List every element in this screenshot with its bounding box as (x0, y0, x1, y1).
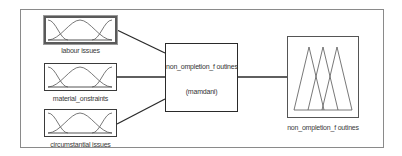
gaussian-mf-icon (46, 18, 115, 42)
fis-system-block[interactable]: non_ompletion_f outines (mamdani) (165, 43, 238, 112)
system-title: non_ompletion_f outines (166, 63, 237, 70)
triangular-mf-icon (288, 37, 358, 117)
system-method: (mamdani) (166, 88, 237, 95)
output-label: non_ompletion_f outines (281, 124, 365, 131)
gaussian-mf-icon (45, 110, 116, 136)
output-block[interactable] (287, 36, 359, 118)
input-label-circumstantial-issues: circumstantial issues (40, 141, 121, 148)
input-block-circumstantial-issues[interactable] (44, 109, 117, 137)
input-block-material-constraints[interactable] (44, 63, 117, 91)
input-label-material-constraints: material_onstraints (40, 95, 121, 102)
input-label-labour-issues: labour issues (44, 47, 117, 54)
gaussian-mf-icon (45, 64, 116, 90)
input-block-labour-issues[interactable] (44, 16, 117, 44)
